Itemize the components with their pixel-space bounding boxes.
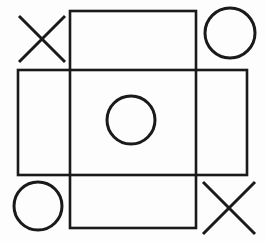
tic-tac-toe-board[interactable]: Tic Tac Toe xyxy=(0,0,265,241)
cell-top-left[interactable] xyxy=(0,0,70,70)
cell-bottom-right[interactable] xyxy=(196,175,265,241)
cell-middle-left[interactable] xyxy=(0,70,70,175)
cell-top-center[interactable] xyxy=(70,0,196,70)
cell-bottom-left[interactable] xyxy=(0,175,70,241)
cell-center[interactable] xyxy=(70,70,196,175)
cell-bottom-center[interactable] xyxy=(70,175,196,241)
cell-top-right[interactable] xyxy=(196,0,265,70)
cell-middle-right[interactable] xyxy=(196,70,265,175)
